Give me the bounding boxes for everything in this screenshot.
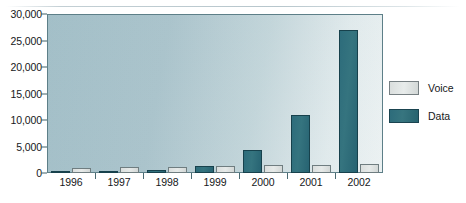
y-axis-label: 10,000	[0, 114, 42, 126]
legend-label: Data	[428, 110, 450, 122]
chart-legend: VoiceData	[389, 80, 463, 136]
legend-swatch-data-icon	[389, 109, 419, 123]
bar-data-2001	[291, 115, 310, 173]
legend-label: Voice	[428, 82, 454, 94]
y-axis-tick	[41, 67, 47, 68]
bar-data-2000	[243, 150, 262, 173]
x-axis-tick	[95, 173, 96, 179]
plot-texture-overlay	[48, 15, 382, 172]
y-axis-tick	[41, 146, 47, 147]
x-axis-label: 1997	[108, 176, 131, 188]
bar-data-1997	[99, 171, 118, 173]
bar-data-1998	[147, 170, 166, 173]
x-axis-tick	[287, 173, 288, 179]
y-axis-tick	[41, 40, 47, 41]
bar-chart-figure: 05,00010,00015,00020,00025,00030,000 199…	[0, 0, 466, 203]
x-axis-tick	[335, 173, 336, 179]
y-axis-label: 25,000	[0, 35, 42, 47]
bar-voice-2001	[312, 165, 331, 173]
y-axis-label: 30,000	[0, 8, 42, 20]
y-axis-tick	[41, 93, 47, 94]
bar-voice-1999	[216, 166, 235, 173]
top-divider-rule	[6, 6, 460, 7]
x-axis-label: 2001	[300, 176, 323, 188]
bar-voice-2000	[264, 165, 283, 173]
bar-data-1999	[195, 166, 214, 173]
x-axis-tick	[143, 173, 144, 179]
legend-item-voice[interactable]: Voice	[389, 80, 463, 96]
plot-area	[47, 14, 383, 173]
x-axis-tick	[191, 173, 192, 179]
y-axis-label: 15,000	[0, 88, 42, 100]
x-axis-label: 2000	[252, 176, 275, 188]
legend-item-data[interactable]: Data	[389, 108, 463, 124]
bar-data-1996	[51, 171, 70, 173]
bar-voice-2002	[360, 164, 379, 173]
bar-voice-1997	[120, 167, 139, 173]
bar-voice-1996	[72, 168, 91, 173]
x-axis-label: 1996	[60, 176, 83, 188]
x-axis-label: 1998	[156, 176, 179, 188]
y-axis-tick	[41, 173, 47, 174]
y-axis-label: 0	[0, 167, 42, 179]
y-axis: 05,00010,00015,00020,00025,00030,000	[0, 0, 42, 203]
bar-voice-1998	[168, 167, 187, 173]
y-axis-label: 5,000	[0, 141, 42, 153]
x-axis-tick	[239, 173, 240, 179]
y-axis-tick	[41, 14, 47, 15]
x-axis-label: 2002	[348, 176, 371, 188]
legend-swatch-voice-icon	[389, 81, 419, 95]
y-axis-tick	[41, 120, 47, 121]
y-axis-label: 20,000	[0, 61, 42, 73]
x-axis-label: 1999	[204, 176, 227, 188]
bar-data-2002	[339, 30, 358, 173]
